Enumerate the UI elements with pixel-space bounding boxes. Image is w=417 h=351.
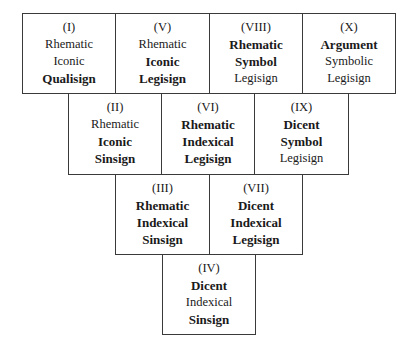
class-term: Iconic	[69, 133, 161, 150]
class-term: Qualisign	[23, 70, 115, 87]
class-term: Indexical	[210, 214, 302, 231]
sign-class-box-ii: (II)RhematicIconicSinsign	[68, 93, 162, 175]
class-term: Dicent	[210, 197, 302, 214]
class-term: Legisign	[303, 70, 395, 87]
class-term: Sinsign	[69, 150, 161, 167]
class-term: Legisign	[255, 150, 348, 167]
class-term: Indexical	[163, 294, 255, 311]
class-numeral: (IX)	[255, 99, 348, 116]
class-term: Rhematic	[210, 36, 302, 53]
class-numeral: (X)	[303, 19, 395, 36]
sign-class-box-iv: (IV)DicentIndexicalSinsign	[162, 254, 256, 335]
class-term: Legisign	[162, 150, 254, 167]
class-numeral: (VII)	[210, 180, 302, 197]
sign-class-box-viii: (VIII)RhematicSymbolLegisign	[209, 13, 303, 94]
class-term: Iconic	[116, 53, 209, 70]
class-term: Legisign	[116, 70, 209, 87]
class-term: Iconic	[23, 53, 115, 70]
sign-class-box-iii: (III)RhematicIndexicalSinsign	[115, 174, 210, 255]
sign-class-box-x: (X)ArgumentSymbolicLegisign	[302, 13, 396, 94]
class-term: Legisign	[210, 231, 302, 248]
sign-class-box-ix: (IX)DicentSymbolLegisign	[254, 93, 349, 175]
class-term: Legisign	[210, 70, 302, 87]
class-term: Rhematic	[162, 116, 254, 133]
class-term: Dicent	[255, 116, 348, 133]
class-term: Rhematic	[116, 36, 209, 53]
class-term: Argument	[303, 36, 395, 53]
sign-class-box-vi: (VI)RhematicIndexicalLegisign	[161, 93, 255, 175]
class-term: Symbol	[210, 53, 302, 70]
sign-class-box-i: (I)RhematicIconicQualisign	[22, 13, 116, 94]
class-numeral: (II)	[69, 99, 161, 116]
class-numeral: (VI)	[162, 99, 254, 116]
class-term: Sinsign	[116, 231, 209, 248]
class-numeral: (III)	[116, 180, 209, 197]
class-term: Rhematic	[116, 197, 209, 214]
class-numeral: (I)	[23, 19, 115, 36]
class-term: Dicent	[163, 277, 255, 294]
class-term: Rhematic	[23, 36, 115, 53]
class-term: Indexical	[162, 133, 254, 150]
class-term: Rhematic	[69, 116, 161, 133]
class-term: Symbolic	[303, 53, 395, 70]
class-numeral: (VIII)	[210, 19, 302, 36]
class-term: Indexical	[116, 214, 209, 231]
class-term: Symbol	[255, 133, 348, 150]
sign-class-box-vii: (VII)DicentIndexicalLegisign	[209, 174, 303, 255]
class-term: Sinsign	[163, 311, 255, 328]
class-numeral: (IV)	[163, 260, 255, 277]
sign-class-box-v: (V)RhematicIconicLegisign	[115, 13, 210, 94]
class-numeral: (V)	[116, 19, 209, 36]
